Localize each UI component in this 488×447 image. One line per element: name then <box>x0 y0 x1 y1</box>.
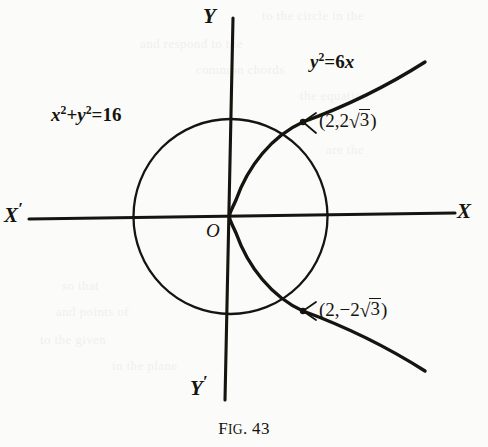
point-lower-coefficient: 2 <box>350 299 360 320</box>
parabola-eq-variable: x <box>345 51 355 72</box>
parabola-eq-coefficient: 6 <box>335 51 345 72</box>
axis-label-x-negative: X′ <box>4 205 23 226</box>
circle-eq-equals: = <box>92 104 103 125</box>
circle-eq-var1: x <box>51 104 61 125</box>
axis-label-y-positive: Y <box>203 6 216 27</box>
figure-43-container: to the circle in the and respond to the … <box>0 0 488 447</box>
circle-eq-value: 16 <box>102 104 121 125</box>
figure-drawing <box>0 0 488 447</box>
axis-label-y-positive-text: Y <box>203 4 216 28</box>
point-lower-close: ) <box>381 299 387 320</box>
point-lower-radicand: 3 <box>369 298 381 318</box>
figure-caption-smallcaps: IG <box>228 422 243 437</box>
point-upper-x: 2 <box>325 110 335 131</box>
parabola-equation-label: y2=6x <box>310 52 354 71</box>
axis-label-x-positive: X <box>457 201 471 222</box>
point-upper-coefficient: 2 <box>340 110 350 131</box>
origin-label-text: O <box>206 220 220 241</box>
axis-label-x-negative-prime: ′ <box>18 199 23 218</box>
axis-label-y-negative: Y′ <box>190 378 208 399</box>
axis-label-x-negative-text: X <box>4 203 18 227</box>
leader-upper-bottom <box>303 122 316 133</box>
sqrt-icon: √3 <box>349 110 370 130</box>
parabola-eq-equals: = <box>324 51 335 72</box>
point-lower-sign: − <box>340 299 351 320</box>
origin-label: O <box>206 221 220 240</box>
point-upper-close: ) <box>370 110 376 131</box>
circle-eq-var2: y <box>77 104 85 125</box>
point-label-lower: (2,−2√3) <box>319 299 387 319</box>
point-upper-radicand: 3 <box>359 109 371 129</box>
point-label-upper: (2,2√3) <box>319 110 377 130</box>
axis-label-y-negative-prime: ′ <box>203 372 208 391</box>
figure-caption-rest: . 43 <box>243 419 270 438</box>
sqrt-icon: √3 <box>360 299 381 319</box>
axis-label-y-negative-text: Y <box>190 376 203 400</box>
figure-caption-prefix: F <box>218 419 228 438</box>
circle-equation-label: x2+y2=16 <box>51 105 121 124</box>
x-axis-line <box>29 213 455 219</box>
leader-lower-top <box>303 302 316 311</box>
figure-caption: FIG. 43 <box>0 419 488 439</box>
circle-eq-plus: + <box>66 104 77 125</box>
axis-label-x-positive-text: X <box>457 199 471 223</box>
point-lower-x: 2 <box>325 299 335 320</box>
